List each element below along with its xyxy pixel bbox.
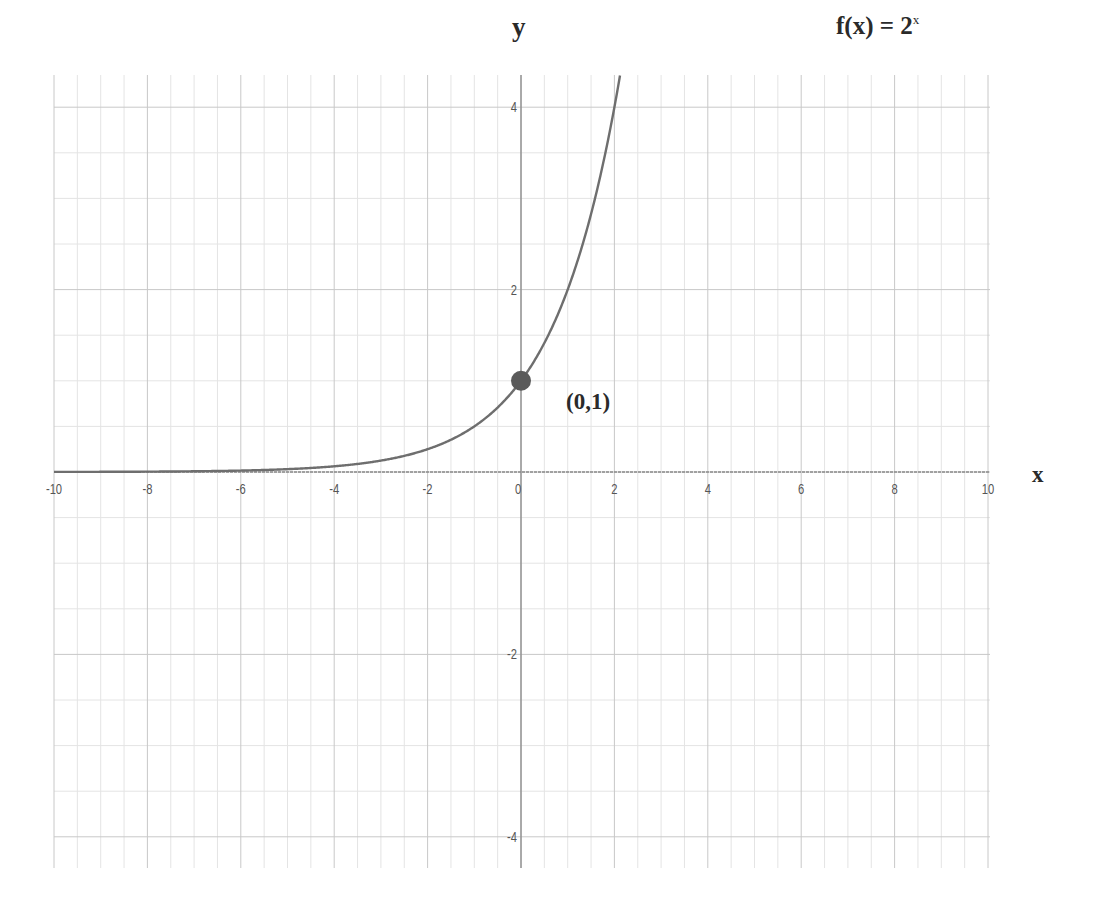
x-tick-label: 10 <box>982 482 994 497</box>
y-tick-label: -2 <box>507 647 517 662</box>
function-plot: -10-8-6-4-20246810-4-224 <box>0 0 1094 912</box>
title-base: f(x) = 2 <box>836 12 913 39</box>
x-tick-label: -2 <box>423 482 433 497</box>
x-tick-label: 0 <box>515 482 521 497</box>
x-tick-label: -6 <box>236 482 246 497</box>
x-tick-label: 2 <box>611 482 617 497</box>
x-tick-label: -10 <box>46 482 62 497</box>
chart-title: f(x) = 2x <box>836 12 919 40</box>
title-exponent: x <box>913 12 920 27</box>
y-tick-label: -4 <box>507 830 517 845</box>
y-tick-label: 2 <box>511 282 517 297</box>
exponential-curve <box>54 76 620 472</box>
y-tick-label: 4 <box>511 100 517 115</box>
x-tick-label: -4 <box>329 482 339 497</box>
x-tick-label: 8 <box>891 482 897 497</box>
x-tick-label: 4 <box>705 482 711 497</box>
y-intercept-point <box>511 371 531 391</box>
y-axis-label: y <box>512 12 526 43</box>
x-axis-label: x <box>1032 462 1044 488</box>
x-tick-label: -8 <box>142 482 152 497</box>
x-tick-label: 6 <box>798 482 804 497</box>
point-label: (0,1) <box>566 389 610 415</box>
